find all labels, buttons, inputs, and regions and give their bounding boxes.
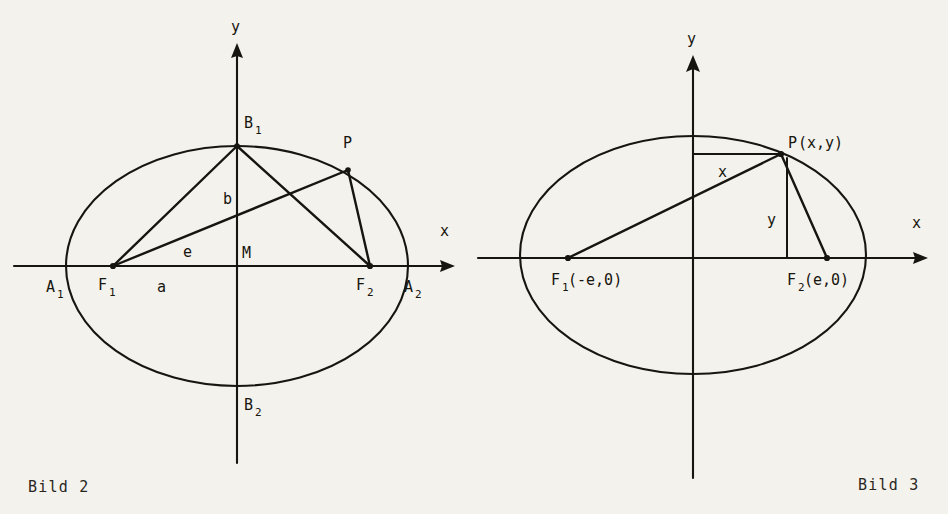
svg-text:1: 1 <box>109 286 116 299</box>
figure-bild-2: x y A 1 A 2 F 1 F 2 B 1 <box>14 18 455 496</box>
svg-text:2: 2 <box>255 406 262 419</box>
segment-p-f2 <box>348 170 370 266</box>
focus-f2-label-right: F 2 (e,0) <box>787 271 849 294</box>
ordinate-y-label: y <box>767 211 776 229</box>
y-axis-label-right: y <box>687 30 696 48</box>
segment-f1-p <box>113 170 348 266</box>
vertex-b1-marker-left <box>234 143 240 149</box>
segment-f1-b1 <box>113 146 237 266</box>
vertex-a2-label: A 2 <box>404 278 422 301</box>
point-p-marker-right <box>778 151 784 157</box>
focus-f1-label-right: F 1 (-e,0) <box>551 271 622 294</box>
vertex-b1-label: B 1 <box>244 114 262 137</box>
svg-text:B: B <box>244 396 253 414</box>
figure-bild-3: x y P (x,y) F 1 (-e,0) F 2 (e,0) x y <box>478 30 928 494</box>
focus-f2-marker-left <box>367 263 373 269</box>
svg-text:B: B <box>244 114 253 132</box>
focus-f1-label: F 1 <box>98 276 116 299</box>
svg-text:A: A <box>404 278 413 296</box>
svg-text:1: 1 <box>255 124 262 137</box>
focus-f2-marker-right <box>824 255 830 261</box>
focus-f1-marker-left <box>110 263 116 269</box>
vertex-b2-label: B 2 <box>244 396 262 419</box>
svg-text:2: 2 <box>415 288 422 301</box>
point-p-label-right: P (x,y) <box>788 134 843 152</box>
svg-text:P: P <box>788 134 797 152</box>
caption-bild-3: Bild 3 <box>858 476 919 494</box>
svg-text:F: F <box>787 271 796 289</box>
svg-text:1: 1 <box>57 288 64 301</box>
point-p-marker-left <box>345 167 351 173</box>
x-axis-arrowhead-left <box>440 260 455 272</box>
semi-axis-a-label: a <box>157 278 166 296</box>
x-axis-label-left: x <box>440 222 449 240</box>
svg-text:(e,0): (e,0) <box>804 271 849 289</box>
focus-f2-label: F 2 <box>356 276 374 299</box>
y-axis-label-left: y <box>231 18 240 36</box>
vertex-a1-label: A 1 <box>46 278 64 301</box>
svg-text:(-e,0): (-e,0) <box>568 271 622 289</box>
svg-text:F: F <box>356 276 365 294</box>
segment-f1-p-right <box>568 154 781 258</box>
svg-text:F: F <box>98 276 107 294</box>
semi-axis-b-label: b <box>223 190 232 208</box>
x-axis-arrowhead-right <box>913 252 928 264</box>
abscissa-x-label: x <box>718 163 727 181</box>
svg-text:F: F <box>551 271 560 289</box>
svg-text:A: A <box>46 278 55 296</box>
focus-f1-marker-right <box>565 255 571 261</box>
linear-eccentricity-e-label: e <box>183 243 192 261</box>
ellipse-figures-svg: x y A 1 A 2 F 1 F 2 B 1 <box>0 0 948 514</box>
centre-m-label: M <box>242 244 251 262</box>
x-axis-label-right: x <box>912 214 921 232</box>
figure-page: x y A 1 A 2 F 1 F 2 B 1 <box>0 0 948 514</box>
caption-bild-2: Bild 2 <box>28 478 89 496</box>
svg-text:2: 2 <box>367 286 374 299</box>
svg-text:(x,y): (x,y) <box>798 134 843 152</box>
point-p-label: P <box>343 134 352 152</box>
y-axis-arrowhead-left <box>231 43 243 58</box>
